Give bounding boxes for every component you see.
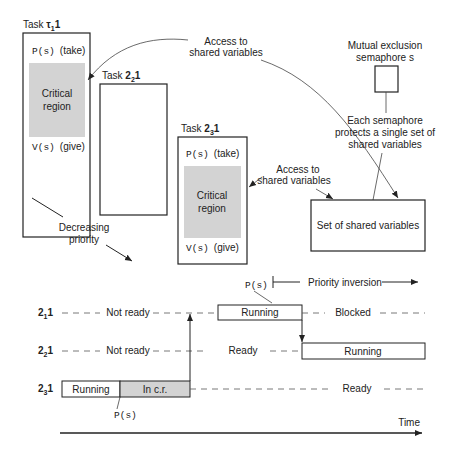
priority-inversion-diagram: Task τ11 P(s)(take) Critical region V(s)… (0, 0, 452, 454)
critical-label: Critical (42, 88, 73, 99)
ps-bottom-label: P(s) (114, 410, 137, 421)
svg-text:In c.r.: In c.r. (143, 384, 167, 395)
svg-text:priority: priority (69, 234, 99, 245)
task-1-critical-region (29, 63, 85, 137)
shared-variables-box: Set of shared variables (311, 200, 425, 251)
svg-text:shared variables: shared variables (189, 47, 262, 58)
row-3-label: 231 (38, 383, 53, 396)
task-3-critical-region (184, 166, 241, 238)
svg-text:Each semaphore: Each semaphore (347, 115, 423, 126)
row-2-label: 221 (38, 345, 53, 358)
svg-text:Not ready: Not ready (106, 307, 149, 318)
svg-text:Mutual exclusion: Mutual exclusion (348, 40, 422, 51)
svg-text:Blocked: Blocked (335, 307, 371, 318)
priority-inversion-label: Priority inversion (308, 277, 382, 288)
task-3-title: Task 231 (181, 123, 220, 136)
semaphore-box (375, 66, 398, 92)
svg-text:protects a single set of: protects a single set of (335, 127, 435, 138)
task-3-box: Task 231 P(s)(take) Critical region V(s)… (178, 123, 247, 264)
svg-text:Ready: Ready (343, 383, 372, 394)
region-label: region (198, 203, 226, 214)
ps-top-label: P(s) (245, 280, 268, 291)
svg-text:Access to: Access to (276, 164, 320, 175)
svg-text:Running: Running (241, 307, 278, 318)
svg-text:Running: Running (72, 384, 109, 395)
task-1-box: Task τ11 P(s)(take) Critical region V(s)… (23, 19, 90, 237)
region-label: region (43, 101, 71, 112)
svg-text:Running: Running (344, 346, 381, 357)
task-1-title: Task τ11 (23, 19, 61, 32)
time-label: Time (398, 417, 420, 428)
timeline: Priority inversion P(s) 211 Not ready Ru… (38, 276, 425, 433)
svg-text:semaphore s: semaphore s (356, 52, 414, 63)
svg-text:Set of shared variables: Set of shared variables (317, 220, 419, 231)
svg-text:shared variables: shared variables (348, 139, 421, 150)
task-2-box: Task 221 (100, 70, 167, 215)
svg-text:Not ready: Not ready (106, 345, 149, 356)
task-2-title: Task 221 (102, 70, 141, 83)
row-1-label: 211 (38, 307, 53, 320)
critical-label: Critical (197, 190, 228, 201)
svg-text:Access to: Access to (204, 36, 248, 47)
access-mid-annotation: Access to shared variables (249, 164, 333, 199)
semaphore: Mutual exclusion semaphore s Each semaph… (335, 40, 435, 200)
svg-text:Decreasing: Decreasing (59, 222, 110, 233)
svg-text:shared variables: shared variables (257, 175, 330, 186)
svg-text:Ready: Ready (229, 345, 258, 356)
